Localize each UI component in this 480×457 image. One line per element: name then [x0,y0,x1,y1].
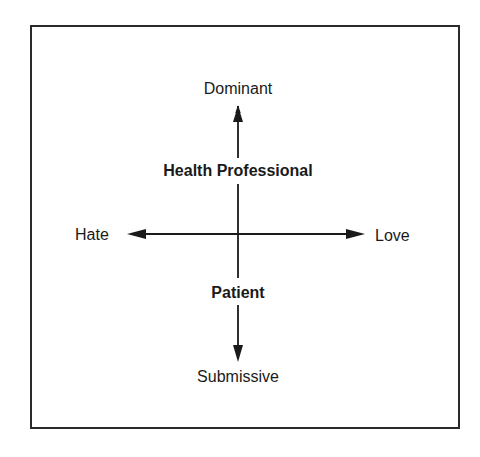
love-label: Love [375,228,410,244]
dominant-label: Dominant [204,81,272,97]
submissive-arrow [233,305,243,362]
horizontal-axis-arrow [127,229,365,239]
health-professional-label: Health Professional [163,163,312,179]
submissive-label: Submissive [197,369,279,385]
patient-label: Patient [211,285,264,301]
hate-label: Hate [75,227,109,243]
dominant-arrow [233,106,243,158]
